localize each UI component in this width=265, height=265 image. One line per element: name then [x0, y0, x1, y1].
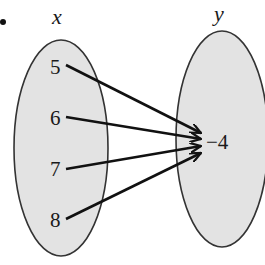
mapping-diagram: x y 5 6 7 8 −4 [0, 0, 265, 265]
domain-element: 8 [50, 208, 61, 232]
domain-set-ellipse [14, 40, 108, 256]
domain-label: x [51, 4, 62, 29]
domain-element: 6 [50, 106, 61, 130]
range-element: −4 [206, 130, 229, 154]
domain-element: 5 [50, 55, 61, 79]
bullet-marker [0, 19, 6, 25]
domain-element: 7 [50, 157, 61, 181]
range-label: y [212, 1, 224, 26]
diagram-canvas: x y 5 6 7 8 −4 [0, 0, 265, 265]
